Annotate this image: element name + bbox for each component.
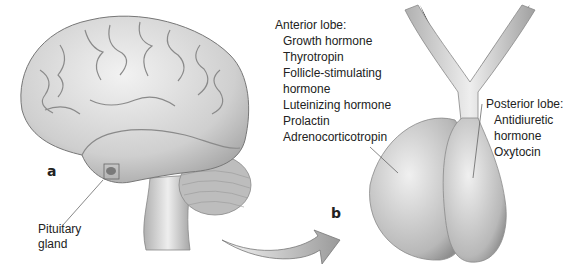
pituitary-label-line-1: Pituitary (38, 222, 81, 237)
panel-label-b: b (331, 205, 341, 221)
hormone-item: Follicle-stimulating (275, 65, 391, 81)
hormone-item: Oxytocin (486, 144, 563, 160)
cerebrum (21, 16, 249, 183)
pituitary-label-line-2: gland (38, 237, 81, 252)
posterior-lobe-title: Posterior lobe: (486, 96, 563, 112)
hormone-item: Luteinizing hormone (275, 97, 391, 113)
anterior-lobe-title: Anterior lobe: (275, 17, 391, 33)
hormone-item: Thyrotropin (275, 49, 391, 65)
pituitary-leader-line (63, 180, 103, 225)
hormone-item: Adrenocorticotropin (275, 129, 391, 145)
hormone-item: hormone (486, 128, 563, 144)
pituitary-gland-label: Pituitary gland (38, 222, 81, 252)
hormone-item: hormone (275, 81, 391, 97)
panel-label-a: a (47, 163, 56, 179)
hormone-item: Antidiuretic (486, 112, 563, 128)
hormone-item: Prolactin (275, 113, 391, 129)
transition-arrow (222, 230, 340, 264)
hormone-item: Growth hormone (275, 33, 391, 49)
posterior-lobe-list: Posterior lobe: Antidiuretic hormone Oxy… (486, 96, 563, 160)
anterior-lobe-list: Anterior lobe: Growth hormone Thyrotropi… (275, 17, 391, 145)
